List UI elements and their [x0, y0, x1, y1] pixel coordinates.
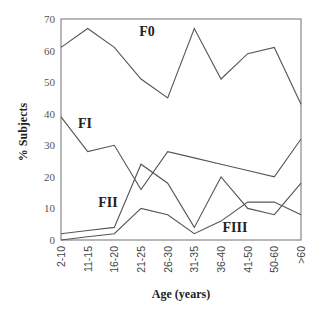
x-axis-ticks: 2-1011-1516-2021-2526-3031-3536-4041-505…	[55, 246, 307, 273]
y-tick-label: 50	[44, 76, 56, 88]
x-tick-label: 16-20	[108, 246, 120, 273]
y-tick-label: 30	[44, 139, 56, 151]
x-tick-label: 31-35	[188, 246, 200, 273]
series-labels: F0FIFIIFIII	[78, 24, 247, 235]
x-tick-label: 41-50	[242, 246, 254, 273]
line-chart: 010203040506070 2-1011-1516-2021-2526-30…	[0, 0, 321, 313]
series-line-f0	[61, 29, 301, 105]
series-label-fiii: FIII	[223, 220, 248, 235]
y-tick-label: 40	[44, 108, 56, 120]
y-tick-label: 10	[44, 202, 56, 214]
y-tick-label: 60	[44, 45, 56, 57]
x-tick-label: 2-10	[55, 246, 67, 267]
x-tick-label: 50-60	[268, 246, 280, 273]
x-tick-label: 11-15	[82, 246, 94, 272]
x-tick-label: 36-40	[215, 246, 227, 273]
x-tick-label: 26-30	[162, 246, 174, 273]
y-tick-label: 20	[44, 171, 56, 183]
y-tick-label: 0	[50, 234, 56, 246]
x-tick-label: >60	[295, 246, 307, 264]
series-label-f0: F0	[139, 24, 155, 39]
x-tick-label: 21-25	[135, 246, 147, 273]
series-line-fi	[61, 117, 301, 190]
plot-frame	[61, 19, 301, 240]
y-axis-title: % Subjects	[16, 103, 30, 162]
series-label-fi: FI	[78, 116, 92, 131]
y-tick-label: 70	[44, 13, 56, 25]
x-axis-title: Age (years)	[152, 287, 210, 301]
series-label-fii: FII	[98, 195, 117, 210]
series-line-fiii	[61, 202, 301, 240]
y-axis-ticks: 010203040506070	[44, 13, 56, 246]
series-lines	[61, 29, 301, 241]
